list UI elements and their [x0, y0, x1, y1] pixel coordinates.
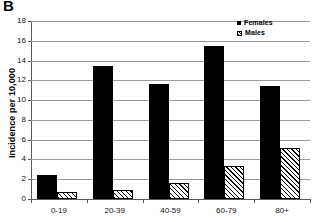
legend-swatch-males-icon [237, 31, 242, 36]
y-tick-mark-14 [28, 61, 31, 62]
x-tick-mark [87, 199, 88, 203]
y-tick-mark-2 [28, 179, 31, 180]
y-tick-label: 8 [22, 116, 26, 124]
x-tick-label-40-59: 40-59 [160, 206, 180, 215]
legend-item-females[interactable]: Females [237, 18, 273, 28]
y-tick-label: 0 [22, 195, 26, 203]
x-tick-label-60-79: 60-79 [216, 206, 236, 215]
bar-females-80+ [260, 86, 280, 199]
figure-panel-b: B Incidence per 10,000 0246810121416180-… [0, 0, 316, 222]
bar-females-40-59 [149, 84, 169, 199]
legend-item-males[interactable]: Males [237, 28, 273, 38]
gridline-y-14 [31, 61, 310, 62]
y-tick-mark-4 [28, 159, 31, 160]
x-tick-label-0-19: 0-19 [51, 206, 67, 215]
bar-females-60-79 [204, 46, 224, 199]
bar-males-60-79 [224, 166, 244, 199]
plot-area: 0246810121416180-1920-3940-5960-7980+ [31, 21, 310, 199]
bar-males-40-59 [169, 183, 189, 199]
legend-label-males: Males [245, 28, 265, 38]
gridline-y-0 [31, 199, 310, 200]
y-tick-mark-6 [28, 140, 31, 141]
x-tick-mark-origin [31, 199, 32, 203]
x-tick-mark [143, 199, 144, 203]
panel-letter-label: B [3, 0, 14, 14]
y-tick-label: 18 [17, 17, 26, 25]
bar-females-0-19 [37, 175, 57, 199]
x-tick-mark [310, 199, 311, 203]
gridline-y-12 [31, 80, 310, 81]
bar-females-20-39 [93, 66, 113, 200]
y-tick-label: 2 [22, 175, 26, 183]
y-tick-label: 16 [17, 37, 26, 45]
y-tick-label: 6 [22, 136, 26, 144]
y-tick-mark-12 [28, 80, 31, 81]
y-axis-title: Incidence per 10,000 [7, 38, 17, 188]
y-tick-mark-10 [28, 100, 31, 101]
x-tick-label-20-39: 20-39 [104, 206, 124, 215]
y-tick-label: 10 [17, 96, 26, 104]
y-tick-mark-18 [28, 21, 31, 22]
x-tick-label-80+: 80+ [275, 206, 289, 215]
y-tick-mark-8 [28, 120, 31, 121]
chart-legend: Females Males [237, 18, 273, 38]
legend-label-females: Females [244, 18, 273, 28]
bar-males-20-39 [113, 190, 133, 199]
y-tick-label: 14 [17, 57, 26, 65]
gridline-y-16 [31, 41, 310, 42]
y-tick-label: 4 [22, 155, 26, 163]
x-tick-mark [198, 199, 199, 203]
bar-males-80+ [280, 148, 300, 199]
y-tick-label: 12 [17, 76, 26, 84]
legend-swatch-females-icon [237, 21, 241, 25]
x-tick-mark [254, 199, 255, 203]
bar-males-0-19 [57, 192, 77, 199]
y-tick-mark-16 [28, 41, 31, 42]
